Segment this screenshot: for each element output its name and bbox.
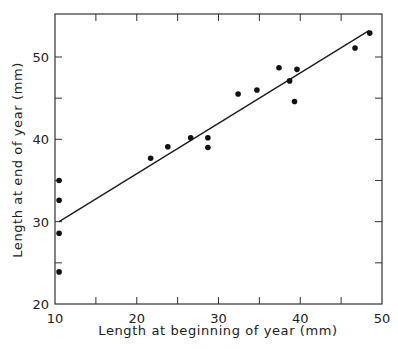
- y-tick-label: 30: [32, 215, 49, 230]
- data-point: [205, 135, 211, 141]
- x-tick-label: 10: [47, 311, 64, 326]
- scatter-chart: 102030405020304050 Length at beginning o…: [0, 0, 398, 349]
- y-tick-label: 50: [32, 50, 49, 65]
- data-point: [235, 91, 241, 97]
- data-point: [56, 197, 62, 203]
- y-tick-label: 20: [32, 297, 49, 312]
- axis-ticks: [55, 14, 382, 304]
- data-point: [254, 87, 260, 93]
- data-point: [287, 78, 293, 84]
- x-axis-title: Length at beginning of year (mm): [98, 323, 337, 338]
- tick-labels: 102030405020304050: [32, 50, 390, 326]
- x-tick-label: 50: [374, 311, 391, 326]
- regression-line: [59, 31, 369, 222]
- data-point: [292, 99, 298, 105]
- plot-frame: [55, 14, 382, 304]
- data-point: [294, 67, 300, 73]
- data-point: [56, 230, 62, 236]
- data-point: [367, 30, 373, 36]
- data-point: [352, 45, 358, 51]
- data-point: [188, 135, 194, 141]
- data-point: [56, 269, 62, 275]
- data-point: [276, 65, 282, 71]
- data-point: [165, 144, 171, 150]
- data-point: [56, 178, 62, 184]
- y-axis-title: Length at end of year (mm): [10, 62, 25, 258]
- data-point: [148, 155, 154, 161]
- y-tick-label: 40: [32, 132, 49, 147]
- data-point: [205, 145, 211, 151]
- data-points: [56, 30, 372, 274]
